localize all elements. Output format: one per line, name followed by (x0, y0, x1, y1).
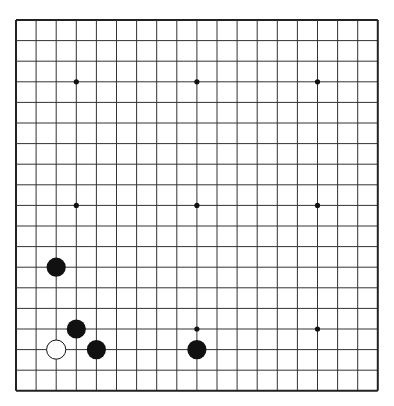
white-stone[interactable] (47, 340, 66, 359)
black-stone[interactable] (87, 340, 106, 359)
black-stone[interactable] (67, 319, 86, 338)
star-point (194, 326, 199, 331)
black-stone[interactable] (47, 258, 66, 277)
star-point (74, 203, 79, 208)
star-point (315, 326, 320, 331)
star-point (194, 203, 199, 208)
go-board-canvas[interactable] (0, 0, 394, 406)
go-board[interactable] (0, 0, 394, 406)
black-stone[interactable] (187, 340, 206, 359)
star-point (315, 79, 320, 84)
star-point (74, 79, 79, 84)
star-point (194, 79, 199, 84)
star-point (315, 203, 320, 208)
